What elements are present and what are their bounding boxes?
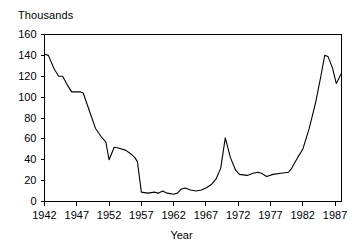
y-tick-label: 100 [0,92,37,103]
y-tick-label: 120 [0,71,37,82]
y-tick-label: 80 [0,113,37,124]
x-axis-tick-marks [45,202,336,206]
y-tick-label: 60 [0,133,37,144]
chart-figure: Thousands 020406080100120140160 19421947… [0,0,363,249]
data-series-line [45,54,342,194]
y-tick-label: 160 [0,29,37,40]
y-tick-label: 140 [0,50,37,61]
y-tick-label: 20 [0,175,37,186]
y-tick-label: 0 [0,196,37,207]
y-axis-tick-marks [41,35,45,202]
y-tick-label: 40 [0,154,37,165]
plot-frame [45,35,342,202]
x-tick-label: 1987 [315,210,355,221]
x-axis-title: Year [0,229,363,242]
